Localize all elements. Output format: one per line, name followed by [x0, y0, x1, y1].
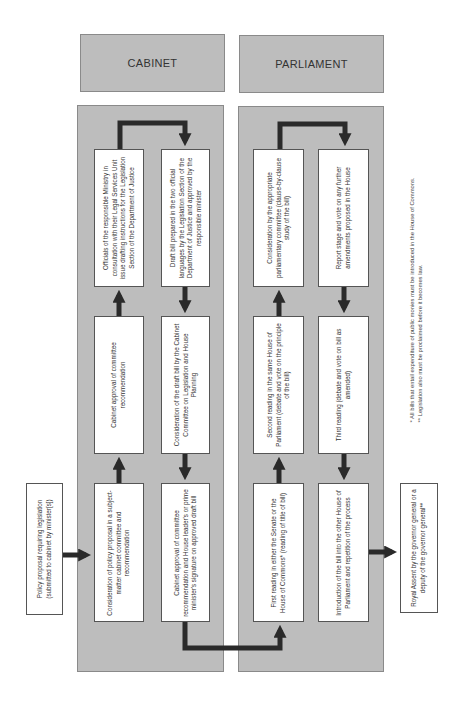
cabinet-step-c6: Cabinet approval of committee recommenda… [161, 483, 210, 622]
parliament-step-p1-text: First reading in either the Senate or th… [270, 489, 287, 617]
footnote-1: * All bills that entail expenditure of p… [408, 178, 416, 423]
parliament-step-p1: First reading in either the Senate or th… [253, 483, 304, 622]
cabinet-step-c1: Consideration of policy proposal in a su… [94, 483, 144, 622]
cabinet-header: CABINET [80, 34, 225, 92]
cabinet-step-c1-text: Consideration of policy proposal in a su… [106, 488, 132, 618]
parliament-step-p3-text: Consideration by the appropriate parliam… [266, 154, 292, 282]
end-box-royal-assent: Royal Assent by the governor general or … [400, 483, 438, 613]
end-box-text: Royal Assent by the governor general or … [410, 487, 427, 609]
cabinet-step-c3: Officials of the responsible Ministry in… [94, 149, 144, 287]
start-box-text: Policy proposal requiring legislation (s… [36, 487, 53, 611]
parliament-step-p2-text: Second reading in the same House of Parl… [266, 320, 292, 450]
parliament-step-p5-text: Third reading (debate and vote on bill a… [335, 321, 352, 449]
parliament-step-p5: Third reading (debate and vote on bill a… [318, 316, 369, 454]
cabinet-step-c2-text: Cabinet approval of committee recommenda… [110, 321, 127, 449]
cabinet-step-c4-text: Draft bill prepared in the two official … [168, 154, 202, 282]
parliament-step-p4-text: Report stage and vote on any further ame… [335, 154, 352, 282]
parliament-step-p6-text: Introduction of the bill into the other … [335, 488, 352, 618]
parliament-step-p4: Report stage and vote on any further ame… [318, 149, 369, 287]
cabinet-step-c5: Consideration of the draft bill by the C… [161, 316, 210, 454]
footnotes: * All bills that entail expenditure of p… [396, 130, 436, 470]
parliament-step-p2: Second reading in the same House of Parl… [253, 316, 304, 454]
parliament-header-label: PARLIAMENT [275, 58, 347, 70]
cabinet-step-c4: Draft bill prepared in the two official … [161, 149, 210, 287]
cabinet-header-label: CABINET [128, 57, 178, 69]
parliament-header: PARLIAMENT [239, 35, 384, 93]
start-box-policy-proposal: Policy proposal requiring legislation (s… [26, 483, 63, 615]
parliament-step-p3: Consideration by the appropriate parliam… [253, 149, 304, 287]
cabinet-step-c2: Cabinet approval of committee recommenda… [94, 316, 144, 454]
cabinet-step-c3-text: Officials of the responsible Ministry in… [102, 153, 136, 283]
cabinet-step-c6-text: Cabinet approval of committee recommenda… [173, 488, 199, 618]
footnote-2: ** Legislation also must be proclaimed b… [416, 178, 424, 423]
cabinet-step-c5-text: Consideration of the draft bill by the C… [173, 321, 199, 449]
parliament-step-p6: Introduction of the bill into the other … [318, 483, 369, 622]
